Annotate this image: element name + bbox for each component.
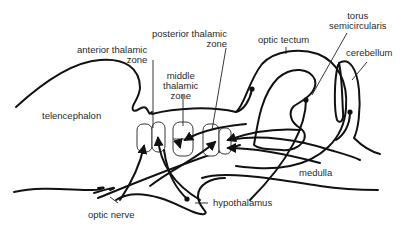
posterior-thalamic-zone-label: posterior thalamic zone: [152, 29, 227, 49]
posterior-thalamic-box-b: [219, 128, 231, 154]
torus-semicircularis-label: torus semicircularis: [329, 11, 387, 31]
anterior-thalamic-zone-label: anterior thalamic zone: [77, 45, 147, 65]
optic-nerve-stem: [14, 187, 104, 192]
diencephalon-roof: [152, 108, 236, 114]
label-line: zone: [77, 55, 147, 65]
optic-nerve-label: optic nerve: [88, 210, 134, 220]
medulla-label: medulla: [299, 168, 332, 178]
label-line: zone: [163, 91, 198, 101]
hypothalamus-label: hypothalamus: [213, 198, 272, 208]
telencephalon-outline: [16, 60, 152, 114]
optic-tectum-label: optic tectum: [258, 35, 309, 45]
middle-thalamic-zone-label: middle thalamic zone: [163, 71, 198, 101]
label-line: zone: [152, 39, 227, 49]
telencephalon-label: telencephalon: [42, 111, 101, 121]
label-line: semicircularis: [329, 21, 387, 31]
medulla-lower: [202, 175, 378, 190]
cerebellum-label: cerebellum: [346, 48, 392, 58]
